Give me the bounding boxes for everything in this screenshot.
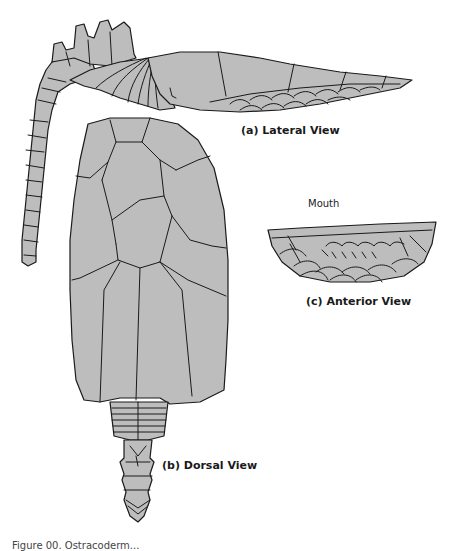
anterior-view-figure (268, 222, 436, 282)
figure-caption: Figure 00. Ostracoderm... (12, 540, 139, 551)
label-dorsal-view: (b) Dorsal View (162, 459, 257, 472)
label-lateral-view: (a) Lateral View (241, 124, 340, 137)
label-anterior-view: (c) Anterior View (306, 295, 411, 308)
label-mouth: Mouth (308, 198, 339, 209)
